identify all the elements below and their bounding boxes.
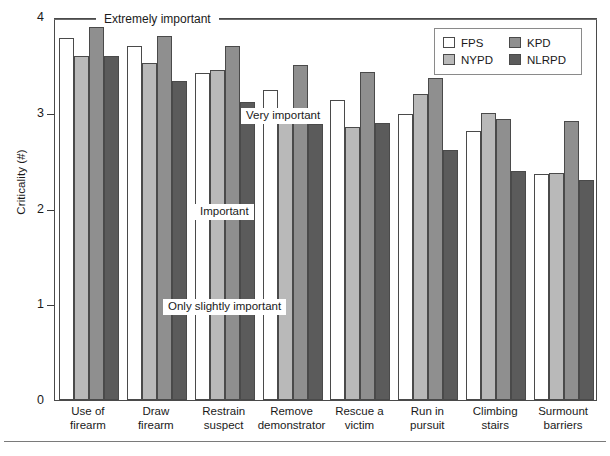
- bar: [413, 94, 428, 400]
- bar-group: [530, 19, 597, 400]
- bar: [579, 180, 594, 400]
- x-axis-label-line: Surmount: [523, 405, 603, 419]
- y-tick-mark-3: [47, 114, 54, 115]
- y-tick-label-1: 1: [22, 297, 44, 311]
- bar: [127, 46, 142, 400]
- y-tick-label-0: 0: [22, 393, 44, 407]
- annotation-very-important: Very important: [241, 108, 325, 124]
- plot-area: Very importantImportantOnly slightly imp…: [54, 18, 597, 401]
- bar: [375, 123, 390, 400]
- legend-item-nlrpd[interactable]: NLRPD: [509, 54, 575, 66]
- x-axis-label: Surmountbarriers: [523, 405, 603, 432]
- legend-label: NYPD: [461, 54, 493, 66]
- legend-swatch-icon: [443, 37, 455, 48]
- legend-swatch-icon: [443, 54, 455, 65]
- legend-label: KPD: [527, 37, 551, 49]
- bar: [225, 46, 240, 400]
- legend-row: FPSKPD: [443, 34, 575, 51]
- bar-group: [55, 19, 123, 400]
- bar: [496, 119, 511, 401]
- y-tick-mark-1: [47, 305, 54, 306]
- legend-label: FPS: [461, 37, 483, 49]
- bar: [142, 63, 157, 400]
- y-tick-label-3: 3: [22, 106, 44, 120]
- bar-group: [327, 19, 395, 400]
- annotation-rule-left: [54, 19, 96, 20]
- legend-swatch-icon: [509, 54, 521, 65]
- legend-item-kpd[interactable]: KPD: [509, 37, 575, 49]
- bar: [360, 72, 375, 400]
- annotation-extremely-important: Extremely important: [54, 11, 597, 27]
- bar: [564, 121, 579, 400]
- caption-divider: [4, 441, 606, 442]
- bar: [534, 174, 549, 400]
- legend-item-fps[interactable]: FPS: [443, 37, 509, 49]
- bar: [549, 173, 564, 400]
- bar-group: [394, 19, 462, 400]
- bar: [104, 56, 119, 400]
- bar: [443, 150, 458, 400]
- bar: [157, 36, 172, 400]
- bar: [59, 38, 74, 400]
- y-tick-label-2: 2: [22, 202, 44, 216]
- bar: [172, 81, 187, 400]
- bar: [398, 114, 413, 400]
- bar: [481, 113, 496, 400]
- y-tick-label-4: 4: [22, 10, 44, 24]
- bar: [345, 127, 360, 400]
- bar: [428, 78, 443, 400]
- legend-item-nypd[interactable]: NYPD: [443, 54, 509, 66]
- bar: [278, 116, 293, 400]
- bar: [511, 171, 526, 400]
- annotation-only-slightly-important: Only slightly important: [163, 299, 286, 315]
- annotation-extremely-important-label: Extremely important: [96, 12, 219, 26]
- bar-group: [123, 19, 191, 400]
- y-tick-mark-2: [47, 210, 54, 211]
- legend-label: NLRPD: [527, 54, 566, 66]
- bar: [195, 73, 210, 400]
- bar: [263, 90, 278, 400]
- bar: [210, 70, 225, 400]
- bar: [330, 100, 345, 400]
- bar: [89, 27, 104, 400]
- bar: [308, 124, 323, 400]
- y-axis-title: Criticality (#): [15, 117, 27, 247]
- annotation-important: Important: [195, 204, 254, 220]
- legend-swatch-icon: [509, 37, 521, 48]
- legend-row: NYPDNLRPD: [443, 51, 575, 68]
- bar-group: [462, 19, 530, 400]
- x-axis-label-line: barriers: [523, 419, 603, 433]
- bar-group: [259, 19, 327, 400]
- bar: [240, 102, 255, 400]
- bar: [74, 56, 89, 400]
- bar: [466, 131, 481, 400]
- annotation-rule-right: [219, 19, 597, 20]
- figure-container: Criticality (#) 01234 Very importantImpo…: [0, 0, 610, 456]
- chart-legend: FPSKPDNYPDNLRPD: [434, 28, 582, 75]
